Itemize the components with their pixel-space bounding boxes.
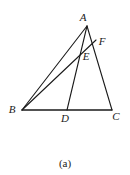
vertex-label-A: A <box>79 11 87 23</box>
geometry-diagram: A B C D E F <box>0 0 130 175</box>
vertex-label-B: B <box>9 103 16 115</box>
geometry-figure: A B C D E F (a) <box>0 0 130 175</box>
vertex-label-C: C <box>112 110 120 122</box>
vertex-label-E: E <box>82 50 90 62</box>
figure-caption: (a) <box>0 157 130 169</box>
vertex-label-F: F <box>98 35 106 47</box>
vertex-label-D: D <box>60 112 69 124</box>
